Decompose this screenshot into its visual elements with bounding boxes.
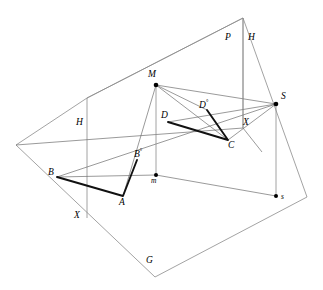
diagram-canvas <box>0 0 323 290</box>
label-point-s-lower: s <box>281 193 284 201</box>
label-point-d: D <box>161 111 168 121</box>
label-plane-g: G <box>146 256 153 266</box>
line-m-to-b-ground <box>57 175 156 177</box>
line-s-to-c <box>228 104 276 140</box>
label-point-d-circle: D° <box>199 99 208 111</box>
line-m-to-s-upper <box>156 85 276 104</box>
label-point-b-circle: B° <box>134 148 142 160</box>
horizon-line <box>16 128 243 145</box>
label-point-a: A <box>119 198 125 208</box>
point-m-dot <box>154 83 159 88</box>
thick-figure-d-c-dcircle <box>168 110 228 140</box>
point-s-dot <box>274 102 279 107</box>
label-point-m-lower: m <box>151 177 156 185</box>
ray-x-right <box>243 128 262 152</box>
label-plane-p: P <box>225 33 231 43</box>
label-point-d-circle-sup: ° <box>206 99 208 105</box>
label-h-left: H <box>76 118 83 128</box>
label-point-s: S <box>281 92 286 102</box>
label-h-right: H <box>248 33 255 43</box>
label-point-m: M <box>148 70 156 80</box>
label-point-b-circle-sup: ° <box>140 148 142 154</box>
label-point-d-circle-base: D <box>199 100 206 110</box>
label-x-right: X <box>243 118 249 128</box>
geometry-figure: P H H G M S s m A B C D B° D° X X <box>0 0 323 290</box>
point-s-lower-dot <box>274 194 278 198</box>
label-x-bottom: X <box>74 211 80 221</box>
line-m-to-s-ground <box>156 175 276 196</box>
ground-plane-g-outline <box>16 18 307 277</box>
label-point-c: C <box>228 141 234 151</box>
thick-figure-b-a-bcircle <box>57 160 137 196</box>
label-point-b: B <box>48 168 54 178</box>
